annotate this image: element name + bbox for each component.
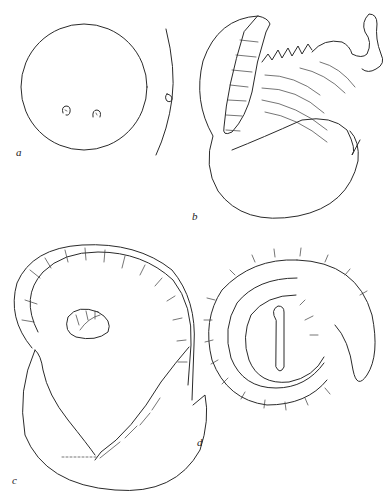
- panel-c-drawing: [14, 245, 207, 491]
- panel-a-drawing: [21, 24, 173, 155]
- panel-d-label: d: [197, 436, 203, 448]
- panel-c-label: c: [12, 474, 17, 486]
- panel-d-drawing: [204, 248, 375, 410]
- panel-b-drawing: [200, 14, 383, 218]
- figure-drawing: [0, 0, 387, 495]
- panel-a-label: a: [16, 146, 22, 158]
- panel-b-label: b: [192, 210, 198, 222]
